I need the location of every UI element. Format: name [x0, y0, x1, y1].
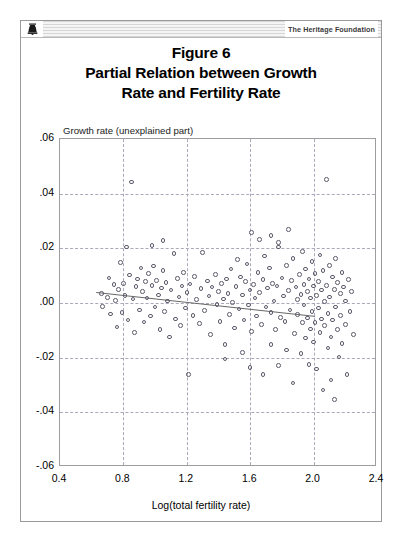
data-point	[300, 320, 305, 325]
data-point	[213, 272, 218, 277]
data-point	[314, 293, 319, 298]
y-axis-title: Growth rate (unexplained part)	[63, 125, 193, 136]
data-point	[327, 295, 332, 300]
data-point	[319, 288, 324, 293]
data-point	[303, 267, 308, 272]
data-point	[143, 279, 148, 284]
data-point	[265, 286, 270, 291]
data-point	[351, 332, 356, 337]
data-point	[113, 298, 118, 303]
data-point	[154, 278, 159, 283]
data-point	[227, 312, 232, 317]
data-point	[148, 314, 153, 319]
data-point	[173, 317, 178, 322]
title-line-2: Partial Relation between Growth	[21, 63, 381, 83]
x-tick-label: 0.8	[102, 472, 142, 484]
data-point	[185, 290, 190, 295]
data-point	[226, 291, 231, 296]
data-point	[256, 270, 261, 275]
data-point	[276, 240, 281, 245]
data-point	[308, 327, 313, 332]
data-point	[267, 266, 272, 271]
data-point	[215, 302, 220, 307]
data-point	[99, 291, 104, 296]
data-point	[327, 263, 332, 268]
brand-label: The Heritage Foundation	[285, 21, 378, 37]
data-point	[324, 283, 329, 288]
data-point	[165, 299, 170, 304]
data-point	[278, 315, 283, 320]
data-point	[310, 259, 315, 264]
data-point	[297, 272, 302, 277]
data-point	[284, 263, 289, 268]
data-point	[330, 318, 335, 323]
data-point	[205, 279, 210, 284]
x-tick-label: 2.0	[293, 472, 333, 484]
data-point	[200, 250, 205, 255]
data-point	[146, 271, 151, 276]
x-tick-label: 0.4	[39, 472, 79, 484]
data-point	[332, 397, 337, 402]
data-point	[112, 282, 117, 287]
data-point	[192, 274, 197, 279]
y-tick-label: .02	[21, 240, 54, 252]
y-tick-label: .06	[21, 131, 54, 143]
scatter-plot	[59, 138, 376, 466]
data-point	[332, 287, 337, 292]
data-point	[307, 362, 312, 367]
data-point	[224, 277, 229, 282]
y-tick-label: -.04	[21, 404, 54, 416]
data-point	[248, 365, 253, 370]
data-point	[183, 306, 188, 311]
data-point	[257, 290, 262, 295]
data-point	[124, 245, 129, 250]
y-tick-label: -.02	[21, 350, 54, 362]
data-point	[335, 280, 340, 285]
data-point	[135, 277, 140, 282]
data-point	[299, 351, 304, 356]
data-point	[311, 340, 316, 345]
x-tick-label: 1.6	[229, 472, 269, 484]
data-point	[116, 287, 121, 292]
data-point	[137, 308, 142, 313]
x-tick-label: 1.2	[166, 472, 206, 484]
data-point	[319, 317, 324, 322]
data-point	[286, 227, 291, 232]
data-point	[262, 254, 267, 259]
data-point	[259, 322, 264, 327]
data-point	[240, 293, 245, 298]
data-point	[273, 327, 278, 332]
title-line-3: Rate and Fertility Rate	[21, 83, 381, 103]
data-point	[346, 277, 351, 282]
data-point	[140, 289, 145, 294]
data-point	[230, 300, 235, 305]
data-point	[276, 363, 281, 368]
data-point	[156, 293, 161, 298]
data-point	[305, 316, 310, 321]
data-point	[162, 309, 167, 314]
data-point	[338, 313, 343, 318]
data-point	[322, 299, 327, 304]
y-tick-label: .00	[21, 295, 54, 307]
data-point	[234, 284, 239, 289]
data-point	[132, 330, 137, 335]
data-point	[257, 237, 262, 242]
data-point	[240, 350, 245, 355]
data-point	[208, 332, 213, 337]
x-axis-title: Log(total fertility rate)	[21, 499, 381, 511]
data-point	[232, 326, 237, 331]
data-point	[318, 330, 323, 335]
figure-title: Figure 6 Partial Relation between Growth…	[21, 43, 381, 103]
data-point	[261, 372, 266, 377]
data-point	[289, 278, 294, 283]
data-point	[300, 249, 305, 254]
data-point	[167, 335, 172, 340]
figure-card: The Heritage Foundation Figure 6 Partial…	[20, 20, 382, 522]
data-point	[150, 283, 155, 288]
data-point	[216, 289, 221, 294]
data-point	[269, 342, 274, 347]
data-point	[251, 282, 256, 287]
data-point	[243, 279, 248, 284]
data-point	[324, 177, 329, 182]
data-point	[175, 276, 180, 281]
